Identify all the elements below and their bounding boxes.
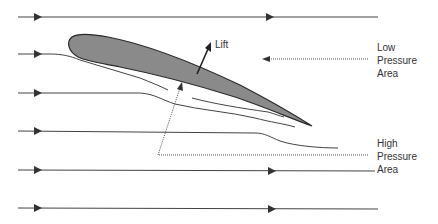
flow-arrow-icon <box>268 205 276 213</box>
flow-arrow-icon <box>266 13 274 21</box>
airfoil-wing <box>69 34 312 126</box>
high-pressure-label-line3: Area <box>377 164 399 175</box>
flow-arrow-icon <box>34 204 42 212</box>
streamline-4 <box>18 127 338 148</box>
lift-label: Lift <box>215 39 229 50</box>
flow-arrow-icon <box>34 166 42 174</box>
pointer-arrow-icon <box>177 82 183 91</box>
flow-arrow-icon <box>34 127 42 135</box>
airfoil-diagram: Lift Low Pressure Area High Pressure Are… <box>0 0 438 224</box>
streamline-6 <box>18 204 378 213</box>
flow-arrow-icon <box>34 13 42 21</box>
streamline-1 <box>18 13 378 21</box>
low-pressure-label-line2: Pressure <box>377 55 417 66</box>
high-pressure-label-line2: Pressure <box>377 151 417 162</box>
flow-arrow-icon <box>34 50 42 58</box>
high-pressure-label-line1: High <box>377 138 398 149</box>
streamline-5 <box>18 166 375 175</box>
pointer-arrow-icon <box>262 56 270 62</box>
flow-arrow-icon <box>268 167 276 175</box>
flow-arrow-icon <box>34 89 42 97</box>
low-pressure-label-line1: Low <box>377 42 396 53</box>
low-pressure-label-line3: Area <box>377 68 399 79</box>
